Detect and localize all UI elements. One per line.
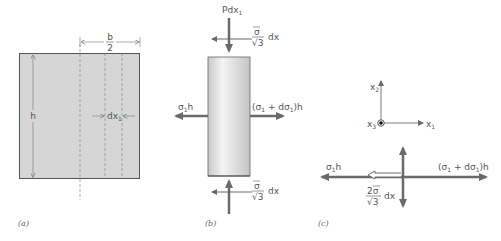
caption-b: (b) — [205, 219, 216, 228]
right-force-label: (σ1 + dσ1)h — [252, 102, 303, 113]
svg-text:dx: dx — [268, 186, 280, 196]
height-label: h — [30, 111, 36, 121]
left-force-label-c: σ1h — [326, 162, 341, 173]
panel-c: x2 x3 x1 σ1h (σ1 + dσ1)h 2σ √3 dx (c) — [318, 81, 489, 228]
right-force-label-c: (σ1 + dσ1)h — [438, 162, 489, 173]
svg-text:2σ: 2σ — [367, 186, 379, 196]
svg-text:dx: dx — [384, 191, 396, 201]
panel-b: Pdx1 σ √3 dx σ1h (σ1 + dσ1)h σ √3 dx (b) — [176, 5, 303, 228]
half-width-numerator: b — [107, 32, 113, 42]
svg-text:√3: √3 — [252, 192, 263, 202]
half-width-denominator: 2 — [107, 43, 113, 53]
svg-text:σ: σ — [254, 27, 260, 37]
svg-text:√3: √3 — [367, 197, 378, 207]
half-width-dimension: b 2 — [80, 32, 140, 53]
x2-label: x2 — [370, 82, 379, 93]
shear-resultant-label: 2σ √3 dx — [366, 186, 396, 207]
column-element — [208, 57, 250, 176]
top-shear-label: σ √3 dx — [252, 27, 280, 48]
top-load-label: Pdx1 — [222, 5, 242, 16]
x1-label: x1 — [426, 119, 435, 130]
caption-c: (c) — [318, 219, 329, 228]
x3-label: x3 — [367, 119, 376, 130]
svg-text:√3: √3 — [252, 38, 263, 48]
svg-text:σ: σ — [254, 181, 260, 191]
panel-a: b 2 h dx1 (a) — [18, 32, 140, 228]
caption-a: (a) — [18, 219, 29, 228]
bottom-shear-label: σ √3 dx — [252, 181, 280, 202]
coordinate-axes: x2 x3 x1 — [367, 81, 435, 130]
svg-text:dx: dx — [268, 32, 280, 42]
left-force-label: σ1h — [178, 102, 193, 113]
figure-canvas: b 2 h dx1 (a) Pdx1 σ √3 dx — [0, 0, 501, 241]
